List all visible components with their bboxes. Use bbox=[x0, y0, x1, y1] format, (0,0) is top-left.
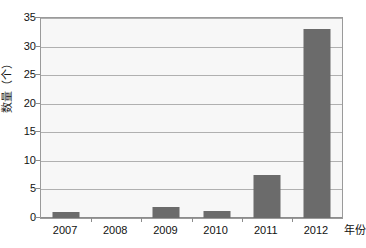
y-axis-tick-label: 35 bbox=[10, 11, 36, 23]
bar-slot bbox=[192, 18, 242, 218]
x-axis-tick-label: 2007 bbox=[40, 222, 90, 238]
y-axis-tick-label: 5 bbox=[10, 182, 36, 194]
y-axis-tick-label: 25 bbox=[10, 68, 36, 80]
y-axis-tick-mark bbox=[34, 188, 40, 189]
x-axis-tick-label: 2009 bbox=[140, 222, 190, 238]
bar-slot bbox=[141, 18, 191, 218]
y-axis-tick-mark bbox=[34, 46, 40, 47]
y-axis-tick-label: 0 bbox=[10, 211, 36, 223]
x-axis-tick-label: 2011 bbox=[241, 222, 291, 238]
bar[interactable] bbox=[253, 175, 280, 218]
plot-area bbox=[40, 17, 343, 219]
y-axis-tick-mark bbox=[34, 217, 40, 218]
y-axis-tick-mark bbox=[34, 103, 40, 104]
bar-slot bbox=[91, 18, 141, 218]
x-axis-tick-label: 2012 bbox=[291, 222, 341, 238]
bars-layer bbox=[41, 18, 342, 218]
y-axis-tick-mark bbox=[34, 160, 40, 161]
x-axis-title: 年份 bbox=[344, 222, 366, 238]
y-axis-tick-mark bbox=[34, 131, 40, 132]
bar-slot bbox=[292, 18, 342, 218]
bar[interactable] bbox=[303, 29, 330, 218]
bar-slot bbox=[41, 18, 91, 218]
bar[interactable] bbox=[53, 212, 80, 218]
y-axis-tick-label: 10 bbox=[10, 154, 36, 166]
bar[interactable] bbox=[203, 211, 230, 218]
y-axis-tick-mark bbox=[34, 17, 40, 18]
bar-slot bbox=[242, 18, 292, 218]
y-axis-tick-label: 15 bbox=[10, 125, 36, 137]
y-axis-tick-mark bbox=[34, 74, 40, 75]
x-axis-tick-label: 2010 bbox=[191, 222, 241, 238]
x-axis-tick-labels: 200720082009201020112012 bbox=[40, 222, 341, 238]
x-axis-tick-label: 2008 bbox=[90, 222, 140, 238]
y-axis-tick-label: 20 bbox=[10, 97, 36, 109]
bar[interactable] bbox=[153, 207, 180, 218]
y-axis-tick-labels: 35302520151050 bbox=[10, 17, 36, 217]
y-axis-tick-label: 30 bbox=[10, 40, 36, 52]
